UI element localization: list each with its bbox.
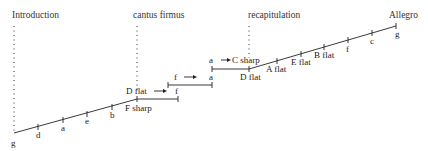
key-label-d-flat-2: D flat xyxy=(240,72,261,82)
key-label-a-3: a xyxy=(209,55,213,65)
arrowhead-icon xyxy=(227,58,231,62)
key-label-a-flat: A flat xyxy=(266,64,287,74)
rising-segment-2: A flat E flat B flat f c g xyxy=(249,23,400,74)
section-label-cantus-firmus: cantus firmus xyxy=(133,10,185,20)
plateau-1: D flat f F sharp xyxy=(125,86,178,113)
section-label-recapitulation: recapitulation xyxy=(248,10,300,20)
key-label-f-2: f xyxy=(174,72,177,82)
section-label-introduction: Introduction xyxy=(12,10,59,20)
key-label-a: a xyxy=(61,123,65,133)
key-label-g-end: g xyxy=(395,29,400,39)
arrowhead-icon xyxy=(163,89,167,93)
key-label-b: b xyxy=(110,110,115,120)
key-label-a-2: a xyxy=(209,72,213,82)
key-label-b-flat: B flat xyxy=(314,50,335,60)
rising-segment-1: g d a e b xyxy=(11,99,137,148)
key-label-f-sharp: F sharp xyxy=(125,103,152,113)
key-label-e: e xyxy=(85,116,89,126)
key-label-c: c xyxy=(370,36,374,46)
key-label-c-sharp: C sharp xyxy=(232,55,260,65)
key-label-f-3: f xyxy=(346,44,349,54)
key-label-d: d xyxy=(36,130,41,140)
section-label-allegro: Allegro xyxy=(389,10,418,20)
arrowhead-icon xyxy=(193,75,197,79)
key-label-d-flat-1: D flat xyxy=(126,86,147,96)
key-label-g-start: g xyxy=(11,138,16,148)
key-label-e-flat: E flat xyxy=(291,57,311,67)
tonal-plan-diagram: Introduction cantus firmus recapitulatio… xyxy=(0,0,428,151)
plateau-3: a C sharp D flat xyxy=(209,55,261,82)
key-label-f-1: f xyxy=(175,86,178,96)
